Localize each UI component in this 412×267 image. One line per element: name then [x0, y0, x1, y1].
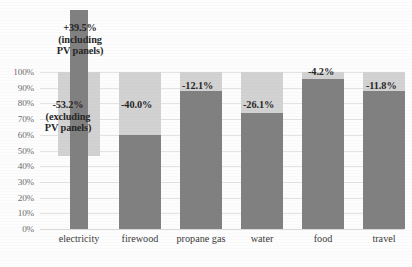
data-label-electricity-excluding: -53.2% (excluding PV panels) [37, 99, 99, 134]
data-label-note-line1: (including [49, 34, 111, 46]
bar-segment-remaining-firewood [119, 135, 161, 229]
y-tick-label: 0% [22, 224, 34, 234]
bar-chart: 100% 90% 80% 70% 60% 50% 40% 30% 20% 10%… [0, 0, 412, 267]
y-tick-label: 50% [18, 146, 34, 156]
bar-group-water [241, 8, 283, 229]
bar-group-food [302, 8, 344, 229]
data-label-note-line1: (excluding [37, 111, 99, 123]
bar-segment-remaining-food [302, 79, 344, 229]
y-axis-labels: 100% 90% 80% 70% 60% 50% 40% 30% 20% 10%… [0, 8, 38, 229]
data-label-note-line2: PV panels) [49, 45, 111, 57]
bar-group-travel [363, 8, 405, 229]
data-label-firewood: -40.0% [121, 99, 152, 110]
x-tick-label-travel: travel [345, 233, 412, 244]
y-tick-label: 60% [18, 130, 34, 140]
y-tick-label: 70% [18, 114, 34, 124]
data-label-note-line2: PV panels) [37, 122, 99, 134]
x-axis-labels: electricity firewood propane gas water f… [40, 233, 408, 253]
bar-segment-remaining-travel [363, 91, 405, 230]
bar-segment-remaining-propane-gas [180, 91, 222, 229]
data-label-value: -53.2% [52, 99, 83, 110]
data-label-water: -26.1% [243, 99, 274, 110]
bar-group-propane-gas [180, 8, 222, 229]
plot-area: +39.5% (including PV panels) -53.2% (exc… [40, 8, 408, 229]
y-tick-label: 100% [13, 67, 34, 77]
data-label-travel: -11.8% [366, 80, 397, 91]
data-label-value: +39.5% [63, 22, 97, 33]
y-tick-label: 40% [18, 161, 34, 171]
y-tick-label: 20% [18, 193, 34, 203]
y-tick-label: 90% [18, 83, 34, 93]
y-tick-label: 10% [18, 208, 34, 218]
bar-group-firewood [119, 8, 161, 229]
y-tick-label: 80% [18, 98, 34, 108]
data-label-propane-gas: -12.1% [182, 80, 213, 91]
y-tick-label: 30% [18, 177, 34, 187]
data-label-electricity-including: +39.5% (including PV panels) [49, 22, 111, 57]
bar-segment-remaining-water [241, 113, 283, 229]
data-label-food: -4.2% [308, 66, 334, 77]
